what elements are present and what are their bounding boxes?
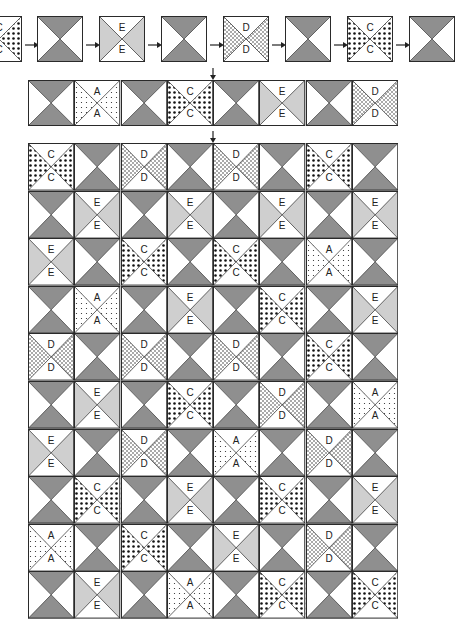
- svg-text:E: E: [279, 108, 286, 119]
- svg-text:D: D: [371, 108, 378, 119]
- quilt-block-E: E E: [213, 524, 259, 572]
- svg-text:C: C: [140, 245, 147, 256]
- svg-text:C: C: [233, 245, 240, 256]
- svg-text:E: E: [48, 458, 55, 469]
- quilt-block-E: E E: [352, 476, 398, 524]
- svg-text:A: A: [94, 86, 101, 97]
- svg-text:C: C: [279, 578, 286, 589]
- right-arrow-icon: [86, 35, 100, 53]
- quilt-block-E: E E: [352, 286, 398, 334]
- svg-text:C: C: [140, 268, 147, 279]
- svg-text:E: E: [94, 601, 101, 612]
- quilt-block-X: [306, 286, 352, 334]
- quilt-block-D: D D: [306, 524, 352, 572]
- svg-text:E: E: [94, 578, 101, 589]
- svg-text:E: E: [119, 44, 126, 55]
- svg-text:E: E: [279, 86, 286, 97]
- quilt-block-X: [352, 429, 398, 477]
- svg-text:C: C: [371, 578, 378, 589]
- quilt-block-X: [167, 143, 213, 191]
- svg-text:C: C: [279, 315, 286, 326]
- svg-text:E: E: [233, 553, 240, 564]
- svg-text:C: C: [186, 86, 193, 97]
- quilt-block-X: [213, 191, 259, 239]
- sequence-block-E: E E: [99, 16, 145, 62]
- quilt-block-D: D D: [28, 333, 74, 381]
- quilt-block-X: [167, 238, 213, 286]
- svg-text:A: A: [94, 292, 101, 303]
- svg-text:C: C: [186, 108, 193, 119]
- svg-text:A: A: [233, 458, 240, 469]
- quilt-block-C: C C: [121, 238, 167, 286]
- svg-text:C: C: [279, 292, 286, 303]
- right-arrow-icon: [396, 35, 410, 53]
- quilt-block-X: [167, 333, 213, 381]
- right-arrow-icon: [148, 35, 162, 53]
- quilt-block-A: A A: [167, 571, 213, 619]
- svg-text:A: A: [187, 578, 194, 589]
- svg-text:D: D: [242, 44, 249, 55]
- quilt-block-X: [213, 286, 259, 334]
- quilt-block-D: D D: [213, 143, 259, 191]
- quilt-block-X: [121, 191, 167, 239]
- quilt-block-D: D D: [213, 333, 259, 381]
- strip-block-X: [306, 80, 352, 126]
- quilt-block-C: C C: [121, 524, 167, 572]
- quilt-block-X: [213, 571, 259, 619]
- quilt-block-X: [259, 429, 305, 477]
- strip-block-D: D D: [352, 80, 398, 126]
- svg-text:C: C: [325, 340, 332, 351]
- svg-text:C: C: [140, 553, 147, 564]
- quilt-block-C: C C: [74, 476, 120, 524]
- right-arrow-icon: [210, 35, 224, 53]
- svg-text:E: E: [372, 220, 379, 231]
- svg-text:C: C: [279, 483, 286, 494]
- strip-block-X: [28, 80, 74, 126]
- quilt-block-X: [306, 571, 352, 619]
- quilt-block-C: C C: [167, 381, 213, 429]
- quilt-block-E: E E: [259, 191, 305, 239]
- sequence-block-D: D D: [223, 16, 269, 62]
- svg-text:D: D: [279, 410, 286, 421]
- quilt-block-X: [74, 143, 120, 191]
- quilt-block-E: E E: [28, 429, 74, 477]
- quilt-block-E: E E: [167, 191, 213, 239]
- quilt-block-D: D D: [306, 429, 352, 477]
- svg-text:A: A: [325, 268, 332, 279]
- svg-text:D: D: [140, 458, 147, 469]
- svg-text:C: C: [366, 22, 373, 33]
- quilt-block-E: E E: [74, 571, 120, 619]
- quilt-block-X: [28, 286, 74, 334]
- svg-text:C: C: [94, 506, 101, 517]
- svg-text:A: A: [325, 245, 332, 256]
- svg-text:D: D: [233, 340, 240, 351]
- svg-text:D: D: [325, 553, 332, 564]
- svg-text:D: D: [233, 149, 240, 160]
- svg-text:C: C: [186, 387, 193, 398]
- svg-text:A: A: [94, 108, 101, 119]
- quilt-block-X: [306, 381, 352, 429]
- svg-text:C: C: [48, 149, 55, 160]
- svg-text:E: E: [372, 315, 379, 326]
- svg-text:C: C: [94, 483, 101, 494]
- svg-text:A: A: [94, 315, 101, 326]
- quilt-block-X: [259, 238, 305, 286]
- quilt-block-E: E E: [74, 191, 120, 239]
- sequence-block-X: [409, 16, 455, 62]
- quilt-block-C: C C: [213, 238, 259, 286]
- quilt-block-X: [28, 381, 74, 429]
- quilt-block-X: [306, 476, 352, 524]
- quilt-block-C: C C: [259, 571, 305, 619]
- svg-text:C: C: [325, 172, 332, 183]
- svg-text:D: D: [233, 172, 240, 183]
- svg-text:E: E: [187, 197, 194, 208]
- svg-text:C: C: [233, 268, 240, 279]
- sequence-block-C: C C: [347, 16, 393, 62]
- quilt-block-E: E E: [167, 286, 213, 334]
- svg-text:C: C: [279, 506, 286, 517]
- quilt-block-E: E E: [28, 238, 74, 286]
- svg-text:C: C: [48, 172, 55, 183]
- svg-text:A: A: [48, 553, 55, 564]
- svg-text:D: D: [140, 363, 147, 374]
- svg-text:C: C: [186, 410, 193, 421]
